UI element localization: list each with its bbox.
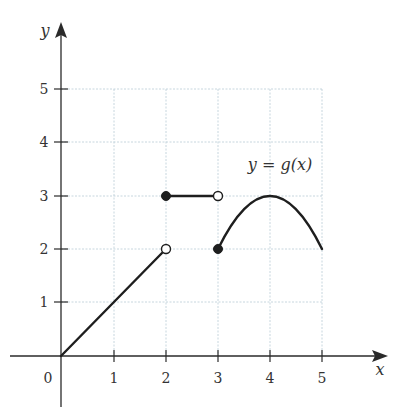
open-point-2-2 xyxy=(162,245,171,254)
origin-label: 0 xyxy=(44,370,53,386)
closed-point-3-2 xyxy=(214,245,223,254)
y-tick-1: 1 xyxy=(40,294,49,310)
x-tick-4: 4 xyxy=(266,370,275,386)
x-tick-1: 1 xyxy=(110,370,119,386)
x-tick-3: 3 xyxy=(214,370,223,386)
function-label: y = g(x) xyxy=(247,155,312,174)
segment-1 xyxy=(61,253,162,356)
y-tick-3: 3 xyxy=(40,188,49,204)
x-tick-5: 5 xyxy=(318,370,327,386)
y-tick-5: 5 xyxy=(40,81,49,97)
graph-of-g: 1 2 3 4 5 0 1 2 3 4 5 x y y = g(x) xyxy=(0,0,403,407)
plot-segments xyxy=(61,196,322,356)
closed-point-2-3 xyxy=(162,192,171,201)
x-tick-2: 2 xyxy=(162,370,171,386)
x-axis-label: x xyxy=(375,360,384,379)
open-point-3-3 xyxy=(214,192,223,201)
y-axis-label: y xyxy=(39,21,50,40)
y-tick-4: 4 xyxy=(40,134,49,150)
y-tick-2: 2 xyxy=(40,241,49,257)
